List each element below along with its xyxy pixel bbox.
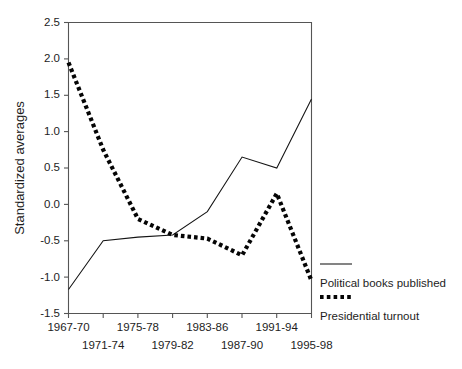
x-tick-label: 1991-94 [256,321,299,333]
y-tick-label: -1.5 [40,307,60,319]
chart-svg: Standardized averages 2.5 2.0 1.5 1.0 0.… [0,0,462,369]
x-tick-labels-row-upper: 1967-70 1975-78 1983-86 1991-94 [47,321,298,333]
x-tick-marks [69,314,312,319]
y-tick-labels: 2.5 2.0 1.5 1.0 0.5 0.0 -0.5 -1.0 -1.5 [40,16,60,319]
chart-figure: Standardized averages 2.5 2.0 1.5 1.0 0.… [0,0,462,369]
x-tick-label: 1987-90 [221,339,263,351]
y-tick-label: -0.5 [40,234,60,246]
chart-legend: Political books published Presidential t… [320,264,446,322]
y-axis-title: Standardized averages [12,101,27,235]
legend-label-presidential-turnout: Presidential turnout [320,310,420,322]
y-tick-label: -1.0 [40,271,60,283]
y-tick-label: 2.5 [44,16,60,28]
y-tick-label: 1.0 [44,125,60,137]
x-tick-label: 1971-74 [82,339,125,351]
y-tick-label: 2.0 [44,52,60,64]
x-tick-label: 1967-70 [47,321,89,333]
x-tick-label: 1979-82 [151,339,193,351]
y-tick-label: 0.5 [44,161,60,173]
series-presidential-turnout [69,63,312,281]
x-tick-label: 1975-78 [117,321,159,333]
legend-label-political-books-published: Political books published [320,277,446,289]
y-tick-label: 0.0 [44,198,60,210]
x-tick-label: 1995-98 [290,339,332,351]
x-tick-labels-row-lower: 1971-74 1979-82 1987-90 1995-98 [82,339,333,351]
y-tick-label: 1.5 [44,88,60,100]
x-tick-label: 1983-86 [186,321,228,333]
